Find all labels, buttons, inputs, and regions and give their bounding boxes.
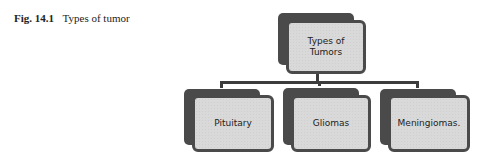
connector-gliomas (318, 81, 321, 86)
root-node-label-line2: Tumors (308, 47, 345, 58)
figure-caption: Fig. 14.1 Types of tumor (14, 12, 130, 24)
figure-number: Fig. 14.1 (14, 12, 54, 24)
child-node-label: Gliomas (313, 118, 349, 129)
child-node-box: Pituitary (192, 95, 274, 152)
root-node-box: Types of Tumors (286, 20, 366, 74)
child-node-label: Meningiomas. (398, 118, 461, 129)
child-node-box: Gliomas (291, 95, 371, 152)
child-node-gliomas: Gliomas (283, 88, 371, 153)
figure-title: Types of tumor (63, 12, 130, 24)
root-node: Types of Tumors (278, 13, 368, 75)
child-node-meningiomas: Meningiomas. (380, 89, 470, 153)
connector-pituitary (220, 81, 223, 88)
child-node-box: Meningiomas. (388, 95, 470, 152)
child-node-pituitary: Pituitary (184, 89, 274, 153)
connector-meningiomas (416, 81, 419, 88)
root-node-label-line1: Types of (308, 36, 345, 47)
child-node-label: Pituitary (214, 118, 252, 129)
